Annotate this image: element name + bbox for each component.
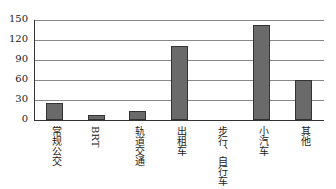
y-tick-label: 120 — [6, 33, 28, 44]
y-tick-label: 150 — [6, 13, 28, 24]
x-tick-label: 常规公交 — [49, 126, 64, 166]
y-tick-label: 60 — [6, 73, 28, 84]
bar — [171, 46, 188, 120]
bar — [253, 25, 270, 120]
y-tick-label: 30 — [6, 93, 28, 104]
x-tick-label: 其他 — [297, 126, 312, 146]
x-tick-label: BRT — [90, 126, 101, 147]
x-tick-label: 步行、自行车 — [214, 126, 229, 186]
y-tick-label: 90 — [6, 53, 28, 64]
gridline — [34, 20, 324, 21]
y-axis — [34, 20, 35, 120]
bar-chart: 0306090120150常规公交BRT轨道交通出租车步行、自行车小汽车其他 — [0, 0, 336, 189]
bar — [129, 111, 146, 120]
bar — [295, 80, 312, 120]
bar — [88, 115, 105, 120]
x-tick-label: 出租车 — [173, 126, 188, 156]
bar — [46, 103, 63, 120]
x-axis — [34, 120, 324, 121]
x-tick-label: 轨道交通 — [132, 126, 147, 166]
gridline — [34, 40, 324, 41]
x-tick-label: 小汽车 — [256, 126, 271, 156]
y-tick-label: 0 — [6, 113, 28, 124]
